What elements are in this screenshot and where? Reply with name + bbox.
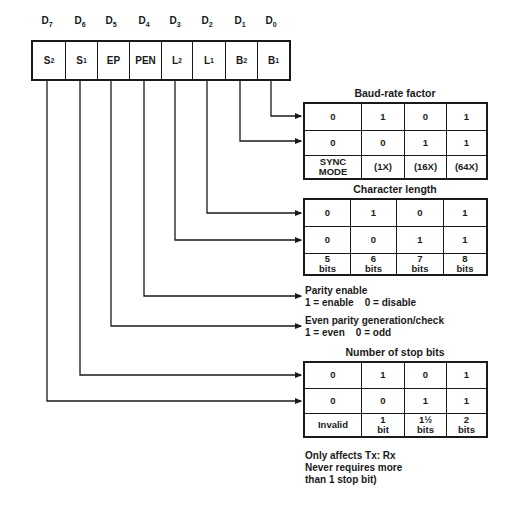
table-cell: Invalid — [304, 413, 362, 437]
stop-bits-title: Number of stop bits — [303, 346, 487, 358]
b1-connector — [271, 79, 301, 116]
table-row: 0 0 1 1 — [304, 226, 487, 253]
table-cell: 0 — [304, 199, 351, 226]
parity-enable-title: Parity enable — [305, 285, 367, 296]
table-cell: 1 — [362, 362, 405, 388]
table-cell: 7 bits — [397, 253, 444, 275]
field-pen: PEN — [130, 42, 162, 79]
bit-label-d1: D1 — [225, 15, 255, 28]
table-cell: 1 — [405, 388, 447, 413]
bit-label-d6: D6 — [65, 15, 95, 28]
table-cell: (64X) — [447, 155, 488, 179]
pen-connector — [144, 79, 301, 296]
even-parity-title: Even parity generation/check — [305, 315, 444, 326]
stop-bits-footnote: Only affects Tx: Rx Never requires more … — [305, 450, 402, 486]
baud-rate-table: 0 1 0 1 0 0 1 1 SYNC MODE (1X) (16X) (64… — [303, 102, 488, 180]
table-cell: 2 bits — [447, 413, 488, 437]
table-row: 0 1 0 1 — [304, 103, 487, 130]
table-cell: 1 — [447, 103, 488, 130]
bit-label-d2: D2 — [192, 15, 222, 28]
parity-enable-desc: 1 = enable 0 = disable — [305, 297, 416, 308]
bit-label-d0: D0 — [256, 15, 286, 28]
table-cell: 0 — [304, 362, 362, 388]
field-ep: EP — [98, 42, 130, 79]
bit-label-d4: D4 — [129, 15, 159, 28]
bit-label-d7: D7 — [32, 15, 62, 28]
table-cell: 1 — [444, 199, 488, 226]
table-cell: 0 — [362, 130, 405, 155]
table-cell: 1 — [447, 130, 488, 155]
mode-register: S2 S1 EP PEN L2 L1 B2 B1 — [31, 40, 291, 81]
table-row: SYNC MODE (1X) (16X) (64X) — [304, 155, 487, 179]
s1-connector — [80, 79, 301, 375]
field-s1: S1 — [66, 42, 98, 79]
table-cell: (16X) — [405, 155, 447, 179]
table-row: 0 1 0 1 — [304, 362, 487, 388]
table-cell: 8 bits — [444, 253, 488, 275]
field-b1: B1 — [258, 42, 289, 79]
field-l2: L2 — [162, 42, 193, 79]
table-cell: 6 bits — [351, 253, 397, 275]
l1-connector — [207, 79, 301, 213]
table-row: 0 0 1 1 — [304, 388, 487, 413]
table-cell: 0 — [405, 103, 447, 130]
baud-rate-title: Baud-rate factor — [303, 87, 487, 99]
table-cell: 0 — [304, 103, 362, 130]
l2-connector — [175, 79, 301, 240]
table-cell: (1X) — [362, 155, 405, 179]
char-length-title: Character length — [303, 183, 487, 195]
footnote-line: Never requires more — [305, 462, 402, 473]
table-cell: 0 — [397, 199, 444, 226]
table-cell: 1 — [447, 362, 488, 388]
table-cell: 5 bits — [304, 253, 351, 275]
table-cell: 0 — [304, 130, 362, 155]
table-row: 5 bits 6 bits 7 bits 8 bits — [304, 253, 487, 275]
field-s2: S2 — [33, 42, 66, 79]
field-b2: B2 — [226, 42, 258, 79]
parity-enable-note: Parity enable 1 = enable 0 = disable — [305, 285, 416, 309]
table-cell: 0 — [351, 226, 397, 253]
table-cell: 0 — [362, 388, 405, 413]
bit-label-d5: D5 — [96, 15, 126, 28]
table-row: 0 1 0 1 — [304, 199, 487, 226]
table-cell: 1 — [397, 226, 444, 253]
table-cell: 1 — [447, 388, 488, 413]
char-length-table: 0 1 0 1 0 0 1 1 5 bits 6 bits 7 bits 8 b… — [303, 198, 488, 276]
table-cell: SYNC MODE — [304, 155, 362, 179]
table-cell: 1½ bits — [405, 413, 447, 437]
bit-label-d3: D3 — [160, 15, 190, 28]
table-cell: 1 — [351, 199, 397, 226]
table-cell: 1 bit — [362, 413, 405, 437]
table-row: 0 0 1 1 — [304, 130, 487, 155]
footnote-line: Only affects Tx: Rx — [305, 450, 396, 461]
table-cell: 1 — [362, 103, 405, 130]
table-cell: 0 — [304, 388, 362, 413]
table-cell: 1 — [444, 226, 488, 253]
stop-bits-table: 0 1 0 1 0 0 1 1 Invalid 1 bit 1½ bits 2 … — [303, 361, 488, 438]
even-parity-note: Even parity generation/check 1 = even 0 … — [305, 315, 444, 339]
table-row: Invalid 1 bit 1½ bits 2 bits — [304, 413, 487, 437]
even-parity-desc: 1 = even 0 = odd — [305, 327, 391, 338]
field-l1: L1 — [193, 42, 226, 79]
table-cell: 0 — [304, 226, 351, 253]
footnote-line: than 1 stop bit) — [305, 474, 377, 485]
table-cell: 1 — [405, 130, 447, 155]
table-cell: 0 — [405, 362, 447, 388]
